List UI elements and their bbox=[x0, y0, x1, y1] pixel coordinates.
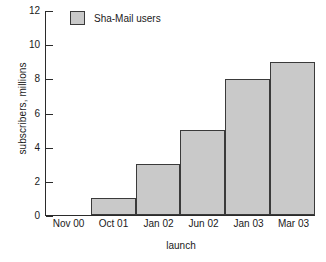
bar-mar-03[interactable] bbox=[270, 62, 315, 215]
y-axis-tick-label: 10 bbox=[20, 40, 40, 50]
y-axis-tick-labels: 024681012 bbox=[16, 0, 40, 262]
bar-jun-02[interactable] bbox=[180, 130, 225, 215]
y-axis-tick-label: 4 bbox=[20, 143, 40, 153]
y-axis-tick-label: 6 bbox=[20, 109, 40, 119]
y-axis-tick-label: 8 bbox=[20, 74, 40, 84]
x-axis-tick-label: Oct 01 bbox=[91, 218, 136, 230]
bar-slot bbox=[136, 11, 181, 215]
legend-label: Sha-Mail users bbox=[94, 13, 161, 24]
bar-slot bbox=[180, 11, 225, 215]
x-axis-tick-label: Jan 02 bbox=[136, 218, 181, 230]
x-axis-tick-label: Nov 00 bbox=[46, 218, 91, 230]
y-axis-tick-label: 12 bbox=[20, 6, 40, 16]
bar-slot bbox=[225, 11, 270, 215]
bar-chart: subscribers, millions 024681012 Nov 00Oc… bbox=[0, 0, 326, 262]
x-axis-title: launch bbox=[46, 240, 316, 251]
y-axis-tick-label: 2 bbox=[20, 177, 40, 187]
bar-jan-03[interactable] bbox=[225, 79, 270, 215]
plot-area bbox=[45, 11, 315, 216]
legend-swatch-icon bbox=[70, 11, 85, 25]
bar-series-sha-mail-users bbox=[46, 11, 315, 215]
x-axis-tick-labels: Nov 00Oct 01Jan 02Jun 02Jan 03Mar 03 bbox=[46, 218, 316, 230]
bar-slot bbox=[46, 11, 91, 215]
bar-slot bbox=[270, 11, 315, 215]
x-axis-tick-label: Jan 03 bbox=[226, 218, 271, 230]
x-axis-line bbox=[45, 215, 315, 216]
x-axis-tick-label: Mar 03 bbox=[271, 218, 316, 230]
y-axis-tick-label: 0 bbox=[20, 211, 40, 221]
legend: Sha-Mail users bbox=[70, 11, 161, 25]
y-axis-tick-mark bbox=[46, 216, 53, 217]
x-axis-tick-label: Jun 02 bbox=[181, 218, 226, 230]
bar-slot bbox=[91, 11, 136, 215]
bar-oct-01[interactable] bbox=[91, 198, 136, 215]
bar-jan-02[interactable] bbox=[136, 164, 181, 215]
